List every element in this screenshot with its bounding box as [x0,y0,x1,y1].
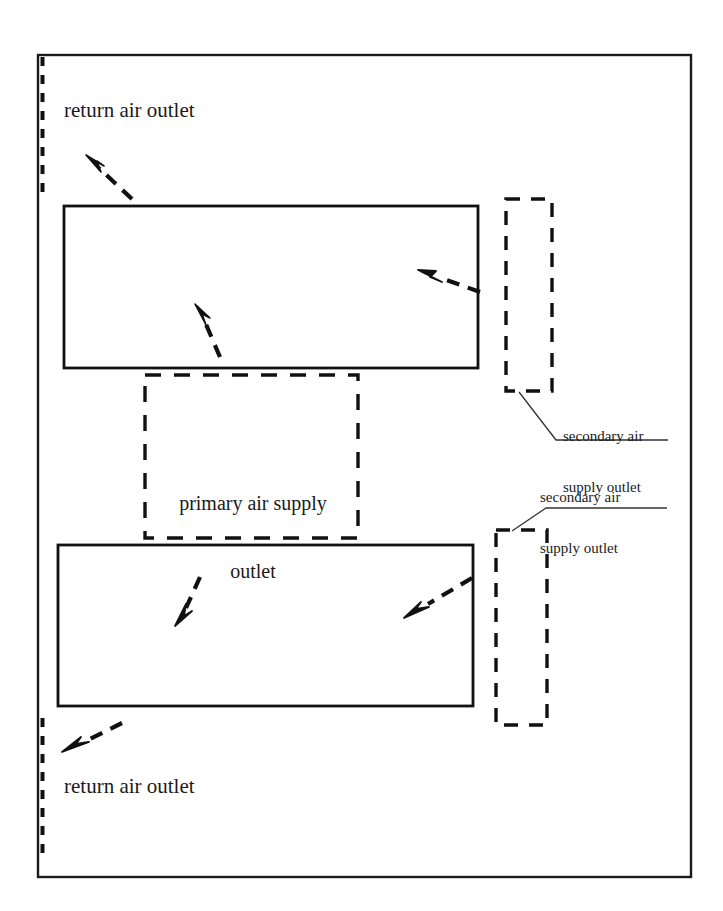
airflow-arrow-to-return-outlet-top [86,155,132,199]
label-primary-air-supply-outlet: primary air supply outlet [160,446,346,628]
secondary-air-supply-outlet-upper-box [506,199,552,391]
label-secondary-air-supply-outlet-lower-line1: secondary air [540,489,620,506]
label-primary-air-supply-outlet-line1: primary air supply [160,492,346,515]
label-secondary-air-supply-outlet-lower: secondary air supply outlet [540,455,620,592]
label-primary-air-supply-outlet-line2: outlet [160,560,346,583]
upper-zone-rectangle [64,206,478,368]
airflow-arrow-to-return-outlet-bottom [62,723,122,752]
label-return-air-outlet-top: return air outlet [64,99,195,123]
airflow-arrow-upper-zone-right [418,270,480,292]
label-return-air-outlet-bottom: return air outlet [64,775,195,799]
airflow-arrow-lower-zone-right [404,578,472,618]
label-secondary-air-supply-outlet-upper-line1: secondary air [563,428,643,445]
airflow-diagram: return air outlet return air outlet prim… [0,0,723,911]
label-secondary-air-supply-outlet-lower-line2: supply outlet [540,540,620,557]
airflow-arrow-upper-zone-left [195,304,220,357]
